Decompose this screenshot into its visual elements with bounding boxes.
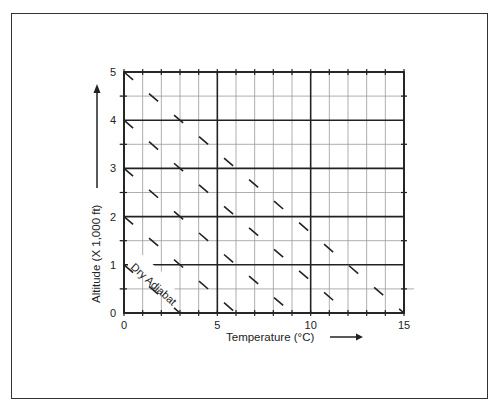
- y-axis-arrow-icon: [94, 84, 101, 93]
- y-tick-label: 4: [110, 114, 116, 126]
- y-tick-label: 0: [110, 307, 116, 319]
- y-tick-label: 2: [110, 211, 116, 223]
- y-tick-label: 1: [110, 259, 116, 271]
- x-axis-label: Temperature (°C): [226, 331, 314, 343]
- y-tick-label: 5: [110, 66, 116, 78]
- x-tick-label: 0: [121, 319, 127, 331]
- x-tick-label: 10: [305, 319, 317, 331]
- y-axis-label: Altitude (X 1,000 ft): [90, 204, 102, 303]
- x-tick-label: 15: [398, 319, 410, 331]
- dry-adiabat-chart: 051015012345 Dry Adiabat Temperature (°C…: [0, 0, 499, 414]
- y-tick-label: 3: [110, 162, 116, 174]
- x-tick-label: 5: [214, 319, 220, 331]
- x-axis-arrow-icon: [356, 334, 363, 341]
